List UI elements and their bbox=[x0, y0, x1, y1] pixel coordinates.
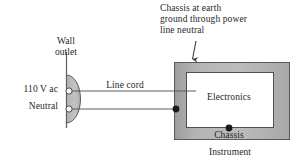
electronics-label: Electronics bbox=[196, 92, 262, 103]
neutral-chassis-node bbox=[173, 106, 180, 113]
line-cord-label: Line cord bbox=[96, 80, 154, 91]
figure-root: Chassis at earth ground through power li… bbox=[0, 0, 304, 161]
chassis-label: Chassis bbox=[200, 130, 258, 141]
wall-outlet-label: Wall outlet bbox=[40, 36, 92, 58]
line-terminal bbox=[66, 88, 72, 94]
wall-outlet-body bbox=[67, 75, 81, 123]
neutral-label: Neutral bbox=[2, 101, 58, 112]
neutral-terminal bbox=[66, 106, 72, 112]
chassis-ground-note: Chassis at earth ground through power li… bbox=[160, 3, 247, 36]
supply-voltage-label: 110 V ac bbox=[2, 84, 58, 95]
chassis-ground-arrow-icon bbox=[193, 41, 197, 59]
instrument-label: Instrument bbox=[199, 147, 261, 158]
